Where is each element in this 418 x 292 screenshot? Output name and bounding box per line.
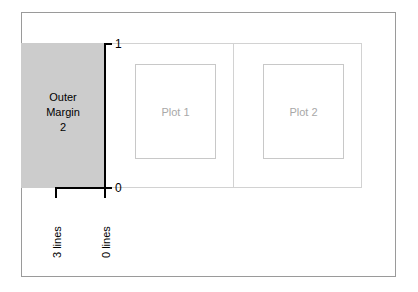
plot-box-1: Plot 1 [135,64,216,159]
vertical-axis-line [104,43,106,189]
measure-label-3-lines: 3 lines [51,226,63,258]
plot-cell-divider [233,43,234,188]
measure-tick-0-lines [104,187,106,198]
axis-label-zero: 0 [115,182,122,194]
outer-margin-line-1: Outer [21,90,105,105]
outer-margin-line-3: 2 [21,120,105,135]
plot-box-2: Plot 2 [263,64,344,159]
graphics-device-diagram: Outer Margin 2 Plot 1 Plot 2 1 0 3 lines… [0,0,418,292]
vertical-axis-tick-top [104,43,112,45]
outer-margin-label: Outer Margin 2 [21,90,105,135]
outer-margin-line-2: Margin [21,105,105,120]
measure-tick-3-lines [55,187,57,198]
plot-box-2-label: Plot 2 [289,106,317,118]
measure-label-0-lines: 0 lines [100,226,112,258]
plot-box-1-label: Plot 1 [161,106,189,118]
measure-bracket-line [55,187,105,189]
axis-label-one: 1 [115,38,122,50]
